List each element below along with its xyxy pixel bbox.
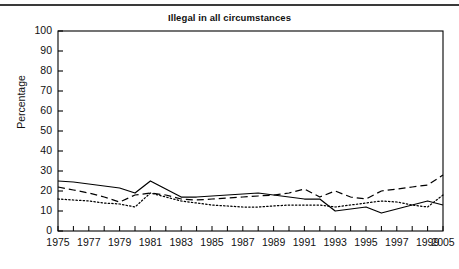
series-dotted <box>58 193 443 207</box>
series-dashed <box>58 175 443 202</box>
x-tick-marks <box>58 226 443 231</box>
y-tick-marks <box>58 31 63 231</box>
plot-area <box>0 0 459 269</box>
chart-figure: Illegal in all circumstances Percentage … <box>0 0 459 269</box>
series-solid <box>58 181 443 213</box>
data-series-group <box>58 175 443 213</box>
